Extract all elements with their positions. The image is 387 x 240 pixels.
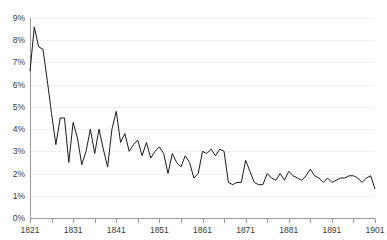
y-tick-label: 1% bbox=[13, 191, 26, 201]
x-tick-label: 1891 bbox=[322, 225, 341, 235]
y-tick-label: 0% bbox=[13, 213, 26, 223]
y-tick-label: 3% bbox=[13, 146, 26, 156]
x-axis-tick-labels: 182118311841185118611871188118911901 bbox=[21, 225, 385, 235]
x-tick-label: 1821 bbox=[21, 225, 40, 235]
y-tick-label: 7% bbox=[13, 57, 26, 67]
y-tick-label: 5% bbox=[13, 102, 26, 112]
x-tick-label: 1901 bbox=[366, 225, 385, 235]
y-tick-label: 8% bbox=[13, 35, 26, 45]
y-tick-label: 9% bbox=[13, 13, 26, 23]
x-tick-label: 1831 bbox=[64, 225, 83, 235]
line-chart: 0%1%2%3%4%5%6%7%8%9% 1821183118411851186… bbox=[0, 0, 387, 240]
x-tick-label: 1851 bbox=[150, 225, 169, 235]
x-tick-label: 1871 bbox=[236, 225, 255, 235]
x-tick-label: 1881 bbox=[279, 225, 298, 235]
y-tick-label: 6% bbox=[13, 80, 26, 90]
axes bbox=[31, 18, 376, 219]
x-tick-label: 1861 bbox=[193, 225, 212, 235]
x-tick-label: 1841 bbox=[107, 225, 126, 235]
x-tick-marks bbox=[31, 219, 376, 223]
gridlines bbox=[30, 19, 375, 197]
y-tick-label: 2% bbox=[13, 169, 26, 179]
y-tick-label: 4% bbox=[13, 124, 26, 134]
chart-container: 0%1%2%3%4%5%6%7%8%9% 1821183118411851186… bbox=[0, 0, 387, 240]
y-axis-tick-labels: 0%1%2%3%4%5%6%7%8%9% bbox=[13, 13, 26, 223]
